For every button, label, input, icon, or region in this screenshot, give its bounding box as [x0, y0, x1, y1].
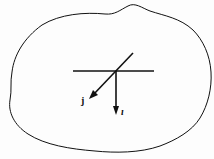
label-j: j: [81, 96, 84, 106]
diagonal-line: [93, 53, 133, 95]
diagram-canvas: j ı: [0, 0, 214, 159]
label-i: ı: [121, 107, 124, 117]
region-outline: [10, 5, 212, 152]
diagram-svg: [0, 0, 214, 159]
i-arrowhead-icon: [113, 106, 119, 115]
